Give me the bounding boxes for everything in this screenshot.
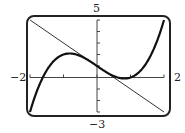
y-min-label: −3 [89, 119, 105, 130]
x-max-label: 2 [174, 72, 181, 83]
y-max-label: 5 [93, 3, 100, 14]
graph-window [0, 0, 185, 133]
x-min-label: −2 [10, 72, 26, 83]
